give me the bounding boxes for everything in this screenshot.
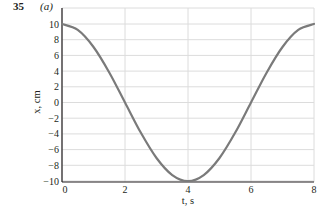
y-tick-label: 10	[49, 19, 59, 30]
y-tick-label: −4	[48, 128, 59, 139]
line-chart: 1086420−2−4−6−8−10 02468 x, cm t, s	[0, 0, 319, 207]
y-tick-label: 6	[54, 50, 59, 61]
y-tick-label: −2	[48, 113, 59, 124]
y-tick-labels: 1086420−2−4−6−8−10	[43, 19, 59, 187]
x-tick-label: 4	[186, 184, 191, 195]
y-tick-label: −6	[48, 144, 59, 155]
y-axis-label: x, cm	[31, 90, 42, 113]
x-tick-labels: 02468	[63, 184, 317, 195]
x-tick-label: 8	[312, 184, 317, 195]
x-tick-label: 6	[249, 184, 254, 195]
y-tick-label: 4	[54, 66, 59, 77]
x-tick-label: 2	[123, 184, 128, 195]
y-tick-label: −10	[43, 176, 59, 187]
x-axis-label: t, s	[182, 195, 194, 206]
y-tick-label: 2	[54, 81, 59, 92]
grid-lines	[62, 8, 314, 182]
y-tick-label: −8	[48, 160, 59, 171]
y-tick-label: 0	[54, 97, 59, 108]
x-tick-label: 0	[63, 184, 68, 195]
y-tick-label: 8	[54, 34, 59, 45]
